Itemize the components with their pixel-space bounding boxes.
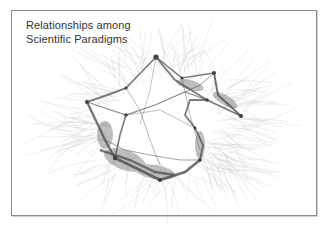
node-top (153, 54, 158, 59)
node-bottom-left (113, 156, 117, 160)
node-right-tip (239, 114, 243, 118)
hair-edges (21, 22, 299, 225)
dense-cluster (97, 77, 240, 183)
node-upper-left (124, 86, 127, 89)
node-right-inner (194, 127, 197, 130)
node-left (85, 100, 89, 104)
paradigm-network-graph (0, 0, 329, 226)
node-bottom (158, 178, 162, 182)
node-right-mid (205, 98, 209, 102)
node-mid-top (181, 77, 184, 80)
node-upper-right (212, 71, 216, 75)
node-left-mid (124, 113, 128, 117)
node-lower-right (198, 158, 202, 162)
